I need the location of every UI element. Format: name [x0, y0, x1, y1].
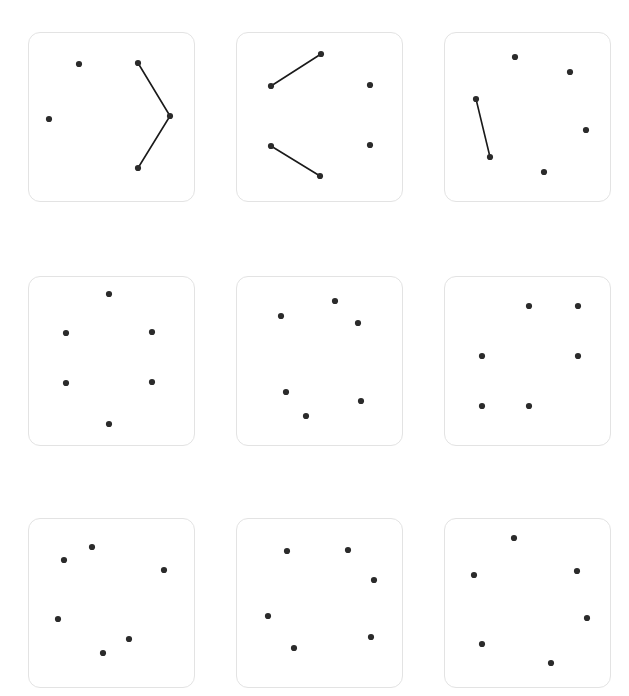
panel-9: [444, 518, 611, 688]
panel-5: [236, 276, 403, 446]
panel-4: [28, 276, 195, 446]
panel-3: [444, 32, 611, 202]
panel-2: [236, 32, 403, 202]
panel-6: [444, 276, 611, 446]
panel-7: [28, 518, 195, 688]
panel-8: [236, 518, 403, 688]
panel-1: [28, 32, 195, 202]
panel-grid: [0, 0, 629, 696]
